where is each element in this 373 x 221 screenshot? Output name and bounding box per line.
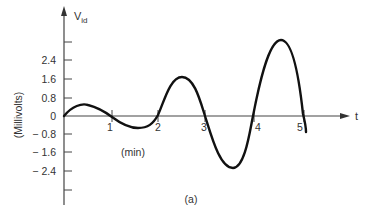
- y-tick-label: 1.6: [41, 73, 56, 85]
- y-tick-label: 0: [50, 110, 56, 122]
- x-axis-unit-label: (min): [121, 146, 145, 158]
- y-tick-label: 0.8: [41, 92, 56, 104]
- x-axis-arrow-icon: [340, 113, 350, 119]
- x-axis-symbol: t: [355, 110, 358, 122]
- x-tick-label: 4: [255, 121, 261, 133]
- y-axis-unit-label: (Millivolts): [12, 92, 24, 139]
- y-tick-label: − 1.6: [32, 146, 56, 158]
- y-tick-label: − 0.8: [32, 128, 56, 140]
- y-tick-label: 2.4: [41, 54, 56, 66]
- y-tick-label: − 2.4: [32, 165, 56, 177]
- voltage-curve: [64, 40, 306, 168]
- y-axis-arrow-icon: [61, 6, 67, 16]
- x-tick-label: 5: [297, 121, 303, 133]
- x-tick-label: 1: [107, 121, 113, 133]
- panel-label: (a): [185, 193, 198, 205]
- voltage-chart: 2.4 1.6 0.8 0 − 0.8 − 1.6 − 2.4 Vid (Mil…: [0, 0, 373, 221]
- x-tick-label: 2: [155, 121, 161, 133]
- y-axis-symbol: Vid: [74, 10, 88, 25]
